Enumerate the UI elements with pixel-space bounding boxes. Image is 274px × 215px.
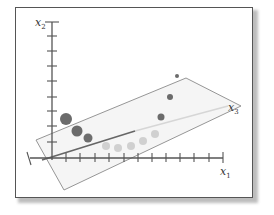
x2-axis-label: x2 — [35, 16, 46, 31]
data-point — [158, 114, 165, 121]
x1-axis-label: x1 — [220, 165, 231, 180]
data-point — [60, 113, 72, 125]
data-point — [102, 142, 110, 150]
data-point — [139, 137, 147, 145]
data-point — [175, 74, 179, 78]
x3-axis-label: x3 — [228, 101, 239, 116]
data-point — [151, 130, 159, 138]
pca-diagram: x2 x1 x3 — [0, 0, 274, 215]
projection-plane — [36, 78, 241, 190]
data-point — [114, 144, 122, 152]
data-point — [72, 126, 83, 137]
data-point — [84, 134, 93, 143]
data-point — [167, 94, 173, 100]
data-point — [127, 142, 135, 150]
